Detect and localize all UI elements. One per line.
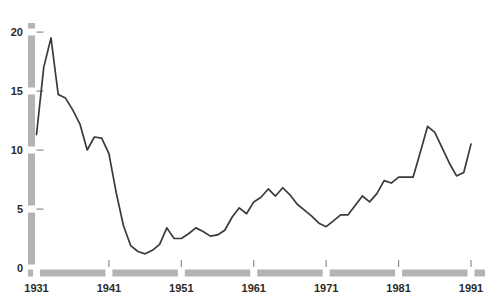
y-tick-label: 15 [0, 85, 23, 97]
x-tick-label: 1961 [242, 282, 266, 294]
y-tick-label: 5 [0, 203, 23, 215]
data-line-value [37, 38, 472, 254]
x-tick-label: 1981 [386, 282, 410, 294]
y-tick-mark [37, 32, 44, 33]
y-tick-mark [37, 150, 44, 151]
x-axis-segment [28, 270, 33, 277]
y-tick-mark [37, 91, 44, 92]
x-tick-label: 1991 [459, 282, 483, 294]
x-tick-mark [470, 260, 471, 267]
x-axis [28, 270, 485, 277]
line-chart: 05101520 1931194119511961197119811991 [0, 0, 499, 308]
y-tick-label: 20 [0, 26, 23, 38]
data-series-group [37, 38, 472, 254]
y-tick-mark [37, 209, 44, 210]
x-axis-segment [257, 270, 322, 277]
x-tick-label: 1951 [169, 282, 193, 294]
y-tick-label: 0 [0, 262, 23, 274]
y-axis-segment [28, 36, 35, 88]
y-tick-label: 10 [0, 144, 23, 156]
x-tick-label: 1941 [97, 282, 121, 294]
y-axis-segment [28, 213, 35, 265]
x-tick-label: 1971 [314, 282, 338, 294]
x-tick-label: 1931 [24, 282, 48, 294]
x-tick-mark [398, 260, 399, 267]
x-axis-segment [40, 270, 105, 277]
x-axis-segment [402, 270, 467, 277]
y-axis [28, 23, 35, 265]
y-axis-segment [28, 23, 35, 29]
y-axis-segment [28, 95, 35, 147]
x-axis-segment [475, 270, 486, 277]
x-tick-mark [108, 260, 109, 267]
x-tick-mark [181, 260, 182, 267]
x-tick-mark [253, 260, 254, 267]
x-axis-segment [185, 270, 250, 277]
x-axis-segment [112, 270, 177, 277]
tick-marks [37, 32, 472, 268]
x-tick-mark [326, 260, 327, 267]
chart-plot-area [0, 0, 499, 308]
y-axis-segment [28, 154, 35, 206]
x-axis-segment [330, 270, 395, 277]
